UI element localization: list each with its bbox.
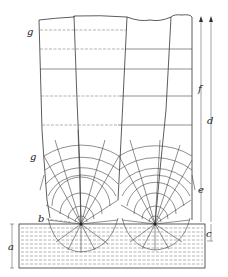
- label-g-mid: g: [30, 151, 36, 162]
- grain-1-radials: [44, 130, 119, 252]
- substrate: [19, 224, 205, 268]
- leader-b: [46, 219, 70, 222]
- nucleus-2: [153, 222, 156, 225]
- label-f: f: [197, 83, 204, 94]
- grain-2-arcs: [119, 146, 192, 250]
- nucleus-1: [79, 222, 82, 225]
- diagram-figure: g g f d e c b a: [0, 0, 228, 277]
- label-c: c: [206, 228, 212, 239]
- top-boundary: [39, 15, 192, 21]
- label-a: a: [8, 241, 14, 252]
- grain-boundaries: [39, 16, 192, 224]
- label-e: e: [198, 184, 204, 195]
- grain-2-radials: [119, 140, 192, 250]
- label-b: b: [38, 213, 44, 224]
- label-g-top: g: [27, 26, 33, 37]
- edge-ticks: [40, 175, 195, 190]
- label-d: d: [207, 115, 213, 126]
